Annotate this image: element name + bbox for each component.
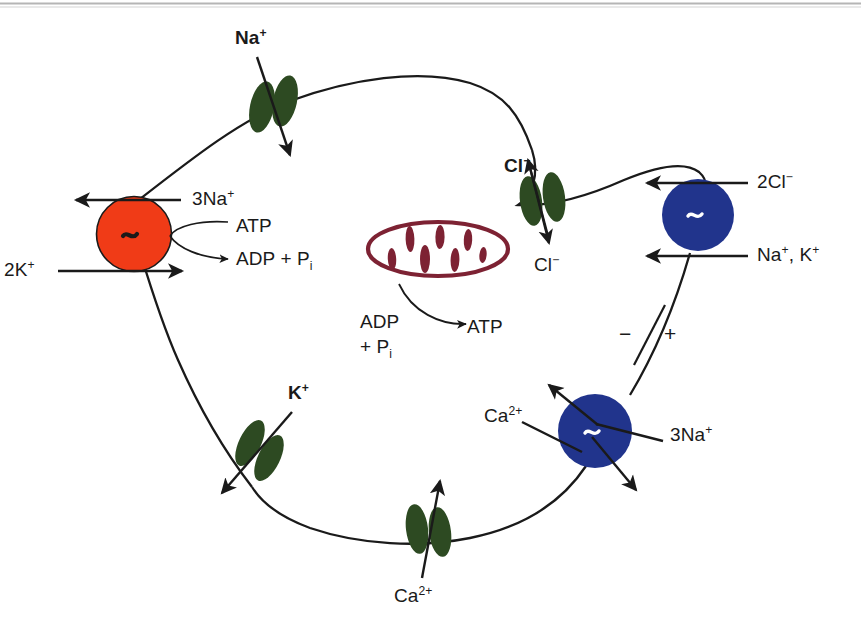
mitochondrion	[368, 222, 508, 324]
atpase-adp-label-subscript: i	[310, 259, 313, 273]
na-k-atpase-adp-arrow	[170, 236, 228, 259]
membrane-polarity-plus: +	[664, 322, 676, 346]
exchanger-calcium-label-charge: 2+	[509, 404, 523, 418]
na-k-atpase-body	[97, 197, 172, 272]
calcium-channel-label-charge: 2+	[419, 584, 433, 598]
na-k-2cl-cotransporter	[647, 179, 748, 256]
atpase-potassium-label-text: 2K	[4, 259, 27, 280]
potassium-channel-label-charge: +	[302, 381, 309, 395]
calcium-channel	[403, 481, 454, 578]
na-k-atpase-energy-symbol	[123, 234, 137, 236]
na-k-2cl-cotransporter-energy-symbol	[688, 214, 702, 216]
cotransporter-sodium-label-text: Na	[757, 244, 782, 265]
atpase-sodium-label-charge: +	[227, 187, 234, 201]
atpase-potassium-label-charge: +	[27, 258, 34, 272]
atpase-atp-label: ATP	[236, 216, 272, 236]
cotransporter-chloride-label-text: 2Cl	[757, 171, 786, 192]
atpase-adp-label: ADP + Pi	[236, 249, 313, 269]
mitochondrion-adp-subscript: i	[389, 347, 392, 361]
membrane-polarity-minus: −	[619, 322, 631, 346]
chloride-efflux-label-charge: −	[523, 154, 530, 168]
cotransporter-sodium-label-charge: +	[782, 243, 789, 257]
mitochondrion-adp-line1: ADP	[360, 312, 399, 332]
calcium-channel-label-text: Ca	[394, 585, 419, 606]
cotransporter-chloride-label: 2Cl−	[757, 172, 793, 192]
membrane-curve-right	[630, 253, 690, 395]
sodium-channel-label-charge: +	[260, 26, 267, 40]
cotransporter-chloride-label-charge: −	[786, 170, 793, 184]
atpase-adp-label-text: ADP + P	[236, 248, 310, 269]
atpase-potassium-label: 2K+	[4, 260, 35, 280]
cotransporter-sodium-potassium-label: Na+, K+	[757, 245, 819, 265]
potassium-channel	[222, 412, 292, 493]
chloride-influx-label-text: Cl	[534, 254, 552, 275]
atpase-sodium-label-text: 3Na	[192, 188, 227, 209]
sodium-channel	[245, 57, 302, 155]
calcium-channel-label: Ca2+	[394, 586, 433, 606]
na-ca-exchanger-energy-symbol	[585, 431, 599, 433]
sodium-channel-label-text: Na	[235, 27, 260, 48]
chloride-influx-label: Cl−	[534, 255, 559, 275]
exchanger-calcium-label: Ca2+	[484, 406, 523, 426]
exchanger-sodium-label: 3Na+	[670, 425, 712, 445]
membrane-curve-top	[131, 76, 532, 206]
cotransporter-potassium-label-charge: +	[812, 243, 819, 257]
potassium-channel-label-text: K	[288, 382, 302, 403]
chloride-efflux-label-text: Cl	[504, 155, 523, 176]
chloride-channel-subunit-left	[517, 175, 546, 228]
exchanger-calcium-label-text: Ca	[484, 405, 509, 426]
diagram-vector-layer	[0, 0, 861, 631]
cotransporter-potassium-label-text: , K	[789, 244, 813, 265]
atpase-sodium-label: 3Na+	[192, 189, 234, 209]
na-ca-exchanger	[522, 305, 665, 490]
mitochondrion-atp-label: ATP	[467, 317, 503, 337]
mitochondrion-reaction-arrow	[399, 284, 466, 324]
sodium-channel-label: Na+	[235, 28, 267, 48]
diagram-canvas: Na+ Cl− Cl− K+ Ca2+ 3Na+ 2K+ ATP ADP + P…	[0, 0, 861, 631]
chloride-influx-label-charge: −	[552, 253, 559, 267]
exchanger-sodium-label-charge: +	[705, 423, 712, 437]
exchanger-sodium-label-text: 3Na	[670, 424, 705, 445]
chloride-channel-subunit-right	[540, 171, 569, 224]
chloride-efflux-label: Cl−	[504, 156, 530, 176]
mitochondrion-adp-line2-text: + P	[360, 336, 389, 357]
mitochondrion-adp-label: ADP + Pi	[360, 312, 399, 357]
mitochondrion-adp-line2: + Pi	[360, 337, 399, 357]
potassium-channel-label: K+	[288, 383, 309, 403]
na-k-atpase-atp-arrow	[170, 222, 228, 236]
